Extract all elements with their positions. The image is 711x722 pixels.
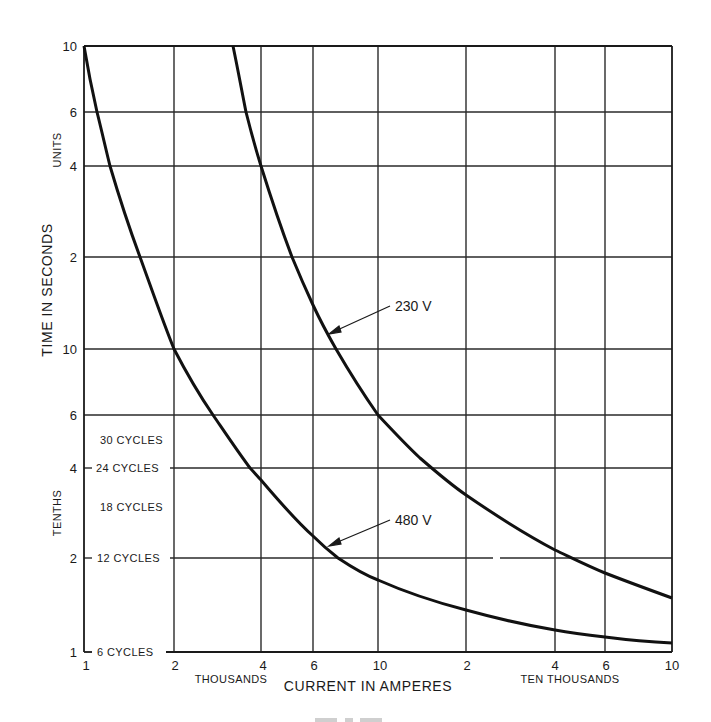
- leader-arrow-480v: [329, 520, 390, 546]
- x-tick-2000: 2: [171, 658, 178, 673]
- cycles-30: 30 CYCLES: [100, 434, 163, 446]
- caption-fragment: [315, 718, 382, 722]
- y-tick-4: 4: [70, 159, 77, 174]
- y-tick-labels: 10 6 4 2 10 6 4 2 1: [63, 39, 77, 660]
- curve-230v: [233, 46, 672, 598]
- y-axis-title: TIME IN SECONDS: [39, 223, 55, 356]
- cycles-6: 6 CYCLES: [97, 646, 153, 658]
- x-tick-40000: 4: [551, 658, 558, 673]
- x-tick-1000: 1: [82, 658, 89, 673]
- y-tick-0.6: 6: [70, 408, 77, 423]
- time-current-chart: 230 V 480 V 10 6 4 2 10 6 4 2 1 30 CYCLE…: [0, 0, 711, 722]
- x-tick-4000: 4: [259, 658, 266, 673]
- x-tick-labels: 1 2 4 6 10 2 4 6 10: [82, 658, 679, 673]
- y-tick-1s: 10: [63, 342, 77, 357]
- y-tick-0.1: 1: [70, 645, 77, 660]
- label-230v: 230 V: [395, 298, 432, 314]
- x-group-thousands: THOUSANDS: [195, 673, 268, 685]
- y-group-tenths: TENTHS: [51, 490, 63, 536]
- cycles-18: 18 CYCLES: [100, 501, 163, 513]
- x-axis-title: CURRENT IN AMPERES: [284, 678, 452, 694]
- x-tick-6000: 6: [310, 658, 317, 673]
- x-tick-20000: 2: [463, 658, 470, 673]
- cycles-12: 12 CYCLES: [97, 552, 160, 564]
- y-tick-10: 10: [63, 39, 77, 54]
- y-tick-6: 6: [70, 105, 77, 120]
- x-tick-10000: 10: [373, 658, 387, 673]
- leader-arrow-230v: [329, 306, 390, 334]
- x-tick-60000: 6: [602, 658, 609, 673]
- y-tick-2: 2: [70, 250, 77, 265]
- cycle-labels: 30 CYCLES 24 CYCLES 18 CYCLES 12 CYCLES …: [96, 434, 163, 658]
- label-480v: 480 V: [395, 512, 432, 528]
- x-tick-100000: 10: [665, 658, 679, 673]
- y-tick-0.2: 2: [70, 551, 77, 566]
- x-group-ten-thousands: TEN THOUSANDS: [520, 673, 619, 685]
- cycles-24: 24 CYCLES: [96, 462, 159, 474]
- y-tick-0.4: 4: [70, 461, 77, 476]
- y-group-units: UNITS: [51, 133, 63, 168]
